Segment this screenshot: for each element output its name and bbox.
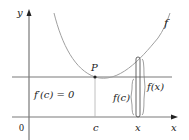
fc-label: f(c) — [112, 92, 130, 103]
point-p-label: P — [90, 62, 98, 73]
y-axis-label: y — [16, 7, 23, 18]
y-axis-arrow-icon — [27, 9, 32, 16]
origin-label: 0 — [19, 122, 24, 133]
x-axis-arrow-icon — [171, 115, 178, 120]
diagram-canvas: y x 0 f P f′(c) = 0 c x f(c) f(x) — [0, 0, 189, 140]
curve-f — [54, 13, 170, 78]
derivative-annotation: f′(c) = 0 — [33, 89, 75, 100]
curve-label: f — [163, 17, 170, 30]
point-p — [93, 75, 96, 78]
fx-label: f(x) — [146, 81, 164, 92]
fx-rectangle — [136, 57, 140, 117]
fx-brace-icon — [142, 59, 145, 115]
fc-brace-icon — [131, 79, 134, 115]
x-axis-label: x — [171, 122, 177, 133]
c-tick-label: c — [93, 122, 99, 133]
x-tick-label: x — [135, 122, 141, 133]
